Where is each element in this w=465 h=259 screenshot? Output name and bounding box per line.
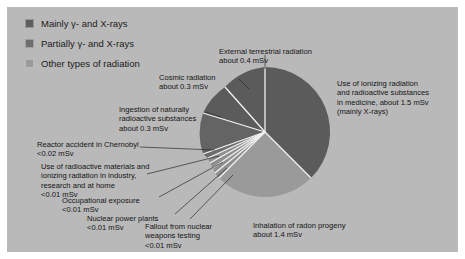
- legend-swatch-icon: [25, 39, 34, 48]
- leader-line-materials: [147, 156, 219, 174]
- pie-slice-occupational: [210, 132, 265, 168]
- callout-occupational-exposure: Occupational exposure <0.01 mSv: [62, 196, 166, 215]
- legend-item-mainly: Mainly γ- and X-rays: [25, 15, 225, 32]
- chart-panel: Mainly γ- and X-rays Partially γ- and X-…: [6, 6, 459, 253]
- callout-radioactive-materials: Use of radioactive materials and ionizin…: [41, 162, 153, 200]
- legend-item-label: Partially γ- and X-rays: [41, 38, 134, 49]
- pie-slice-chernobyl: [203, 132, 265, 158]
- pie-slice-fallout: [213, 132, 265, 173]
- pie-slice-nuclear-power-plants: [215, 132, 265, 178]
- legend-swatch-icon: [25, 59, 34, 68]
- callout-cosmic-radiation: Cosmic radiation about 0.3 mSv: [159, 73, 251, 92]
- leader-line-npp: [175, 168, 227, 214]
- leader-line-fallout: [190, 175, 233, 219]
- callout-ingestion: Ingestion of naturally radioactive subst…: [119, 105, 215, 133]
- legend-item-other: Other types of radiation: [25, 55, 225, 72]
- pie-slice-radioactive-materials: [208, 132, 265, 163]
- callout-radon-progeny: Inhalation of radon progeny about 1.4 mS…: [253, 221, 377, 240]
- legend: Mainly γ- and X-rays Partially γ- and X-…: [25, 15, 225, 75]
- callout-chernobyl: Reactor accident in Chernobyl <0.02 mSv: [37, 140, 147, 159]
- pie-slice-medicine: [265, 67, 330, 178]
- legend-item-label: Other types of radiation: [41, 58, 140, 69]
- figure-root: Mainly γ- and X-rays Partially γ- and X-…: [0, 0, 465, 259]
- legend-item-label: Mainly γ- and X-rays: [41, 18, 128, 29]
- leader-line-chernobyl: [140, 147, 215, 150]
- callout-fallout: Fallout from nuclear weapons testing <0.…: [145, 222, 237, 250]
- pie-slice-radon: [219, 132, 311, 197]
- legend-swatch-icon: [25, 19, 34, 28]
- callout-external-terrestrial: External terrestrial radiation about 0.4…: [219, 47, 339, 66]
- leader-line-occupational: [159, 162, 223, 197]
- legend-item-partially: Partially γ- and X-rays: [25, 35, 225, 52]
- callout-medicine: Use of ionizing radiation and radioactiv…: [337, 79, 453, 117]
